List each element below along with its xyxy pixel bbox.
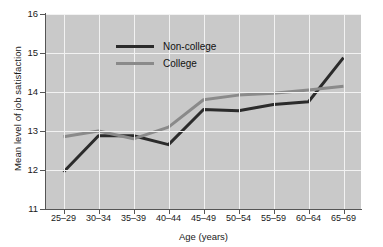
y-tick xyxy=(40,92,45,93)
legend-item-college: College xyxy=(116,55,216,72)
y-axis-title: Mean level of job satisfaction xyxy=(12,14,23,204)
legend: Non-college College xyxy=(116,38,216,72)
legend-swatch-non-college xyxy=(116,45,154,48)
y-tick-label: 12 xyxy=(0,164,38,175)
job-satisfaction-line-chart: Mean level of job satisfaction Non-colle… xyxy=(0,0,383,247)
legend-label-college: College xyxy=(163,58,197,69)
y-tick xyxy=(40,209,45,210)
y-tick xyxy=(40,170,45,171)
y-tick xyxy=(40,53,45,54)
plot-area: Non-college College xyxy=(46,14,361,209)
y-tick-label: 14 xyxy=(0,86,38,97)
gridline-vertical xyxy=(99,14,100,209)
y-tick-label: 15 xyxy=(0,47,38,58)
y-tick xyxy=(40,131,45,132)
y-tick-label: 11 xyxy=(0,203,38,214)
legend-label-non-college: Non-college xyxy=(163,41,216,52)
gridline-vertical xyxy=(64,14,65,209)
x-axis-title: Age (years) xyxy=(46,231,361,242)
gridline-vertical xyxy=(274,14,275,209)
legend-swatch-college xyxy=(116,62,154,65)
y-tick-label: 16 xyxy=(0,8,38,19)
gridline-vertical xyxy=(239,14,240,209)
y-axis-line xyxy=(45,13,46,210)
legend-item-non-college: Non-college xyxy=(116,38,216,55)
x-tick-label: 65–69 xyxy=(322,213,366,223)
y-tick xyxy=(40,14,45,15)
y-tick-label: 13 xyxy=(0,125,38,136)
gridline-vertical xyxy=(309,14,310,209)
gridline-vertical xyxy=(344,14,345,209)
